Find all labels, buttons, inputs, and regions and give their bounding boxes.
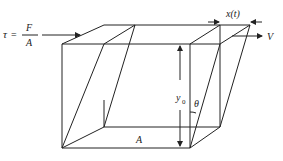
svg-text:F: F	[25, 22, 33, 33]
svg-text:x(t): x(t)	[225, 8, 241, 20]
original-block	[62, 25, 220, 148]
displacement-indicator: x(t)	[208, 8, 262, 22]
shear-angle: θ	[190, 98, 199, 113]
svg-text:τ: τ	[3, 28, 8, 40]
height-dimension: y 0	[175, 46, 186, 146]
svg-text:θ: θ	[194, 98, 199, 109]
base-area-label: A	[135, 134, 143, 145]
shear-diagram: τ = F A x(t) V y 0 θ A	[0, 0, 283, 161]
sheared-block	[62, 25, 250, 148]
svg-text:0: 0	[182, 98, 186, 106]
svg-text:V: V	[267, 31, 275, 42]
svg-text:y: y	[175, 92, 181, 103]
svg-text:A: A	[25, 37, 33, 48]
svg-text:=: =	[11, 29, 17, 40]
